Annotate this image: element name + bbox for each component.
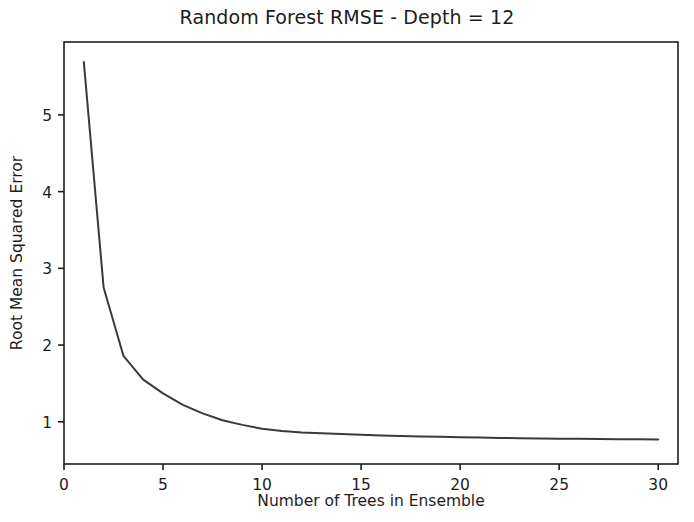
- chart-figure: Random Forest RMSE - Depth = 12 05101520…: [0, 0, 694, 522]
- y-tick-label: 2: [42, 337, 52, 355]
- y-tick-label: 1: [42, 414, 52, 432]
- plot-area: 05101520253012345Number of Trees in Ense…: [0, 0, 694, 522]
- x-tick-label: 5: [158, 476, 168, 494]
- axes-frame: [64, 42, 678, 464]
- x-tick-label: 0: [59, 476, 69, 494]
- x-tick-label: 25: [549, 476, 569, 494]
- x-axis-label: Number of Trees in Ensemble: [257, 492, 484, 510]
- y-tick-label: 4: [42, 184, 52, 202]
- y-axis-label: Root Mean Squared Error: [8, 155, 26, 350]
- x-tick-label: 30: [648, 476, 668, 494]
- y-tick-label: 3: [42, 260, 52, 278]
- data-line-rmse: [84, 62, 658, 440]
- y-tick-label: 5: [42, 107, 52, 125]
